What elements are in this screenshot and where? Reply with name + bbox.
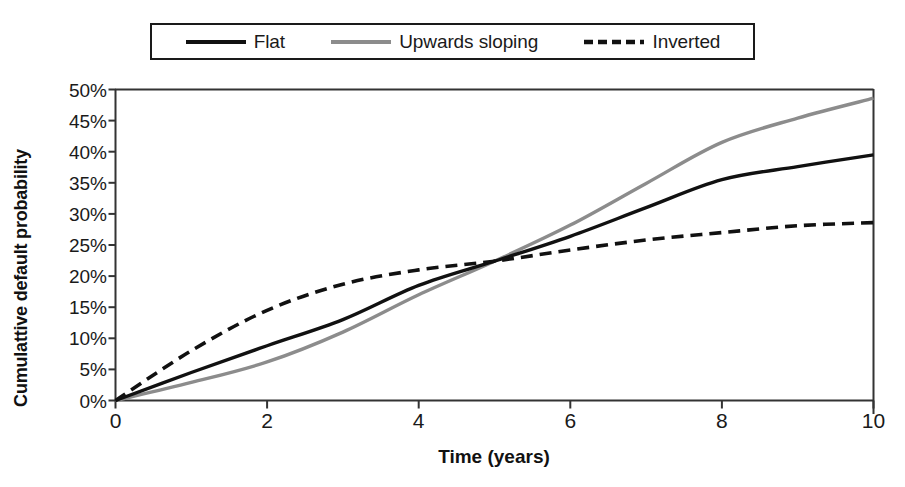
x-axis-tick-label: 2: [237, 410, 297, 431]
x-axis-tick-label: 0: [86, 410, 146, 431]
data-series-line: [116, 155, 874, 401]
x-axis-tick-label: 10: [844, 410, 904, 431]
x-axis-tick-label: 4: [389, 410, 449, 431]
x-axis-tick-label: 8: [692, 410, 752, 431]
data-series-line: [116, 98, 874, 400]
axis-lines: [115, 89, 874, 414]
data-series-group: [116, 98, 874, 400]
y-axis-ticks: [109, 90, 116, 401]
x-axis-ticks: [116, 401, 874, 409]
x-axis-title: Time (years): [115, 446, 873, 468]
x-axis-tick-label: 6: [540, 410, 600, 431]
chart-figure: Flat Upwards sloping Inverted Cumulattiv…: [0, 0, 905, 487]
